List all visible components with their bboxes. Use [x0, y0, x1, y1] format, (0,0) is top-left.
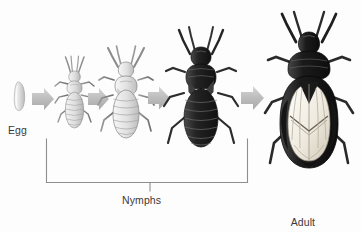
label-nymphs: Nymphs [122, 194, 161, 206]
label-egg: Egg [8, 124, 27, 136]
stage-nymph-1 [55, 56, 94, 128]
arrow-nymph1-to-nymph2 [88, 88, 109, 110]
arrow-egg-to-nymph1 [32, 88, 54, 110]
stage-nymph-2 [98, 46, 154, 138]
label-adult-chinch-bug: Adult chinch bug [277, 192, 329, 232]
arrow-nymph2-to-nymph3 [148, 87, 170, 110]
stage-nymph-3 [164, 27, 238, 147]
arrow-nymph3-to-adult [241, 86, 264, 110]
nymphs-bracket [47, 139, 248, 191]
chinch-bug-life-cycle-figure: Egg Nymphs Adult chinch bug [0, 0, 361, 232]
label-adult-line1: Adult [277, 216, 329, 228]
stage-adult [265, 12, 353, 168]
stage-egg [14, 82, 24, 111]
